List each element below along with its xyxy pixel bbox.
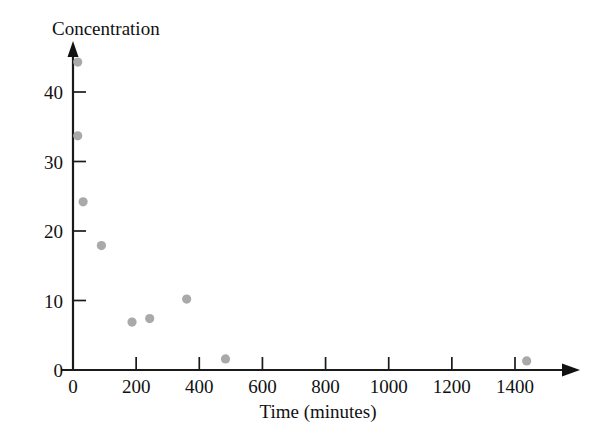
- data-points-group: [73, 58, 531, 366]
- data-point: [73, 58, 82, 67]
- x-tick-label: 1400: [496, 376, 534, 397]
- y-tick-label: 30: [44, 152, 63, 173]
- x-axis-tick-labels: 0200400600800100012001400: [68, 376, 534, 397]
- scatter-plot: 010203040 0200400600800100012001400 Conc…: [0, 0, 609, 445]
- y-tick-label: 10: [44, 291, 63, 312]
- y-tick-label: 20: [44, 221, 63, 242]
- y-tick-label: 40: [44, 82, 63, 103]
- x-tick-label: 1200: [433, 376, 471, 397]
- data-point: [73, 131, 82, 140]
- x-axis-group: [61, 364, 580, 377]
- x-tick-label: 200: [122, 376, 151, 397]
- y-axis-label: Concentration: [52, 18, 160, 39]
- x-tick-label: 0: [68, 376, 78, 397]
- x-axis-arrow-icon: [562, 364, 580, 377]
- y-tick-label: 0: [54, 360, 64, 381]
- data-point: [182, 295, 191, 304]
- data-point: [97, 241, 106, 250]
- x-tick-label: 1000: [370, 376, 408, 397]
- x-axis-label: Time (minutes): [260, 401, 377, 423]
- x-tick-label: 400: [185, 376, 214, 397]
- x-tick-label: 800: [311, 376, 340, 397]
- x-tick-label: 600: [248, 376, 277, 397]
- data-point: [221, 354, 230, 363]
- y-axis-group: [68, 41, 79, 370]
- x-axis-ticks: [73, 357, 515, 370]
- data-point: [522, 356, 531, 365]
- data-point: [127, 317, 136, 326]
- chart-figure: 010203040 0200400600800100012001400 Conc…: [0, 0, 609, 445]
- data-point: [145, 314, 154, 323]
- y-axis-arrow-icon: [68, 41, 79, 57]
- y-axis-tick-labels: 010203040: [44, 82, 63, 381]
- data-point: [79, 197, 88, 206]
